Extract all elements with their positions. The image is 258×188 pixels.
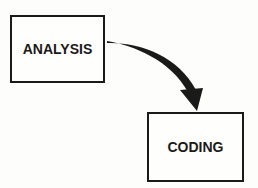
curved-arrow-icon [0, 0, 258, 188]
